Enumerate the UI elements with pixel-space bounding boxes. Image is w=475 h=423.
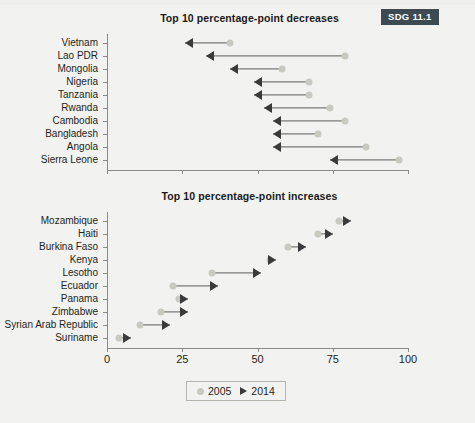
connector-line: [273, 120, 345, 121]
data-point-2005-dec-4: [305, 92, 312, 99]
data-point-2005-inc-2: [284, 244, 291, 251]
x-axis-tick: [333, 348, 334, 352]
data-point-2005-dec-9: [395, 157, 402, 164]
category-label-inc-2: Burkina Faso: [39, 242, 98, 252]
x-axis-label-2: 50: [251, 353, 263, 365]
y-axis-tick: [103, 325, 107, 326]
data-point-2014-inc-8: [162, 320, 170, 330]
data-point-2005-inc-9: [116, 335, 123, 342]
data-point-2005-inc-7: [158, 309, 165, 316]
x-axis-label-4: 100: [399, 353, 417, 365]
data-point-2014-inc-0: [343, 216, 351, 226]
category-label-inc-8: Syrian Arab Republic: [5, 320, 98, 330]
y-axis-line: [107, 34, 108, 170]
category-label-inc-3: Kenya: [70, 255, 98, 265]
data-point-2005-dec-0: [227, 40, 234, 47]
category-label-inc-6: Panama: [61, 294, 98, 304]
data-point-2005-dec-1: [341, 53, 348, 60]
category-label-dec-8: Angola: [67, 142, 98, 152]
data-point-2014-inc-5: [210, 281, 218, 291]
category-label-dec-0: Vietnam: [61, 38, 98, 48]
category-label-inc-9: Suriname: [55, 333, 98, 343]
category-label-inc-4: Lesotho: [62, 268, 98, 278]
connector-line: [254, 81, 308, 82]
data-point-2005-dec-6: [341, 118, 348, 125]
data-point-2005-inc-1: [314, 231, 321, 238]
y-axis-tick: [103, 221, 107, 222]
y-axis-tick: [103, 43, 107, 44]
connector-line: [254, 94, 308, 95]
data-point-2014-dec-1: [206, 51, 214, 61]
data-point-2014-inc-9: [123, 333, 131, 343]
x-axis-tick: [182, 348, 183, 352]
triangle-marker-icon: [240, 387, 247, 395]
plot-area-decreases: VietnamLao PDRMongoliaNigeriaTanzaniaRwa…: [107, 34, 408, 182]
x-axis-tick: [107, 170, 108, 174]
x-axis-label-3: 75: [327, 353, 339, 365]
circle-marker-icon: [197, 388, 204, 395]
data-point-2014-dec-9: [330, 155, 338, 165]
y-axis-line: [107, 212, 108, 348]
y-axis-tick: [103, 273, 107, 274]
category-label-inc-0: Mozambique: [41, 216, 98, 226]
data-point-2005-dec-2: [278, 66, 285, 73]
top-strip: [0, 0, 475, 5]
connector-line: [264, 107, 330, 108]
category-label-dec-1: Lao PDR: [57, 51, 98, 61]
data-point-2014-inc-2: [298, 242, 306, 252]
legend-label-2005: 2005: [208, 385, 231, 397]
x-axis-tick: [258, 170, 259, 174]
category-label-dec-6: Cambodia: [52, 116, 98, 126]
category-label-dec-7: Bangladesh: [45, 129, 98, 139]
data-point-2014-dec-5: [264, 103, 272, 113]
data-point-2014-dec-6: [273, 116, 281, 126]
x-axis-tick: [333, 170, 334, 174]
y-axis-tick: [103, 121, 107, 122]
y-axis-tick: [103, 260, 107, 261]
x-axis-label-0: 0: [104, 353, 110, 365]
category-label-dec-9: Sierra Leone: [41, 155, 98, 165]
y-axis-tick: [103, 56, 107, 57]
data-point-2014-inc-1: [325, 229, 333, 239]
category-label-dec-2: Mongolia: [57, 64, 98, 74]
y-axis-tick: [103, 338, 107, 339]
category-label-dec-3: Nigeria: [66, 77, 98, 87]
panel-increases: Top 10 percentage-point increases Mozamb…: [0, 190, 475, 370]
panel-decreases-title: Top 10 percentage-point decreases: [0, 12, 475, 24]
data-point-2014-dec-3: [254, 77, 262, 87]
chart-page: SDG 11.1 Top 10 percentage-point decreas…: [0, 0, 475, 423]
category-label-dec-4: Tanzania: [58, 90, 98, 100]
y-axis-tick: [103, 108, 107, 109]
data-point-2014-dec-0: [185, 38, 193, 48]
data-point-2014-inc-4: [253, 268, 261, 278]
x-axis-tick: [107, 348, 108, 352]
y-axis-tick: [103, 286, 107, 287]
data-point-2005-dec-7: [314, 131, 321, 138]
y-axis-tick: [103, 160, 107, 161]
data-point-2005-inc-5: [170, 283, 177, 290]
y-axis-tick: [103, 82, 107, 83]
data-point-2005-dec-8: [362, 144, 369, 151]
category-label-inc-1: Haiti: [78, 229, 98, 239]
legend-label-2014: 2014: [251, 385, 274, 397]
category-label-inc-5: Ecuador: [61, 281, 98, 291]
x-axis-tick: [258, 348, 259, 352]
data-point-2014-dec-2: [230, 64, 238, 74]
y-axis-tick: [103, 234, 107, 235]
x-axis-label-1: 25: [176, 353, 188, 365]
legend-item-2005: 2005: [197, 385, 231, 397]
y-axis-tick: [103, 95, 107, 96]
y-axis-tick: [103, 299, 107, 300]
y-axis-tick: [103, 69, 107, 70]
x-axis-tick: [408, 170, 409, 174]
data-point-2005-inc-8: [137, 322, 144, 329]
data-point-2005-dec-3: [305, 79, 312, 86]
x-axis-tick: [408, 348, 409, 352]
data-point-2014-inc-7: [180, 307, 188, 317]
panel-decreases: Top 10 percentage-point decreases Vietna…: [0, 12, 475, 182]
y-axis-tick: [103, 134, 107, 135]
x-axis-tick: [182, 170, 183, 174]
data-point-2014-inc-3: [268, 255, 276, 265]
data-point-2014-dec-8: [273, 142, 281, 152]
data-point-2005-dec-5: [326, 105, 333, 112]
